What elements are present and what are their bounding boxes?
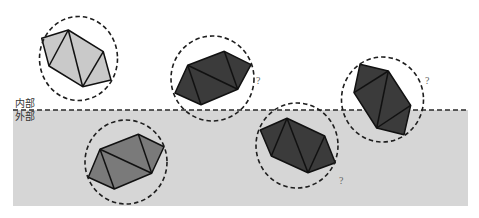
element-1-light-mesh [40,17,118,101]
outside-label: 外部 [15,110,35,122]
element-5-question-mark: ? [425,75,430,86]
diagram-canvas: 内部 外部 ? ? ? [0,0,479,218]
element-4-question-mark: ? [339,175,344,186]
element-2-dark-mesh: ? [171,36,261,121]
inside-label: 内部 [15,97,35,109]
element-1-polygon [42,30,111,87]
element-2-question-mark: ? [256,75,261,86]
